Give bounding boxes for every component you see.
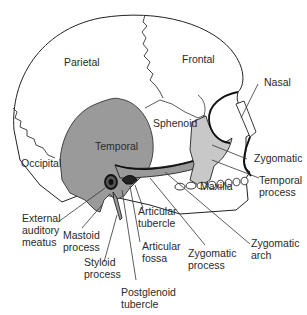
- label-zygomatic-arch: Zygomatic arch: [251, 237, 299, 261]
- label-temporal-process: Temporal process: [259, 174, 302, 198]
- label-styloid-process: Styloid process: [84, 256, 121, 280]
- label-occipital: Occipital: [21, 157, 61, 169]
- label-postglenoid-tubercle: Postglenoid tubercle: [121, 286, 176, 310]
- label-zygomatic-process: Zygomatic process: [188, 247, 236, 271]
- label-external-auditory-meatus: External auditory meatus: [22, 212, 61, 248]
- label-frontal: Frontal: [182, 53, 215, 65]
- label-temporal: Temporal: [95, 140, 138, 152]
- label-parietal: Parietal: [64, 56, 100, 68]
- label-articular-tubercle: Articular tubercle: [138, 205, 177, 229]
- label-sphenoid: Sphenoid: [153, 117, 197, 129]
- label-zygomatic: Zygomatic: [254, 152, 302, 164]
- skull-diagram: Parietal Frontal Temporal Sphenoid Occip…: [0, 0, 307, 315]
- label-mastoid-process: Mastoid process: [63, 229, 100, 253]
- label-articular-fossa: Articular fossa: [142, 240, 181, 264]
- label-maxilla: Maxilla: [200, 180, 233, 192]
- label-nasal: Nasal: [264, 76, 291, 88]
